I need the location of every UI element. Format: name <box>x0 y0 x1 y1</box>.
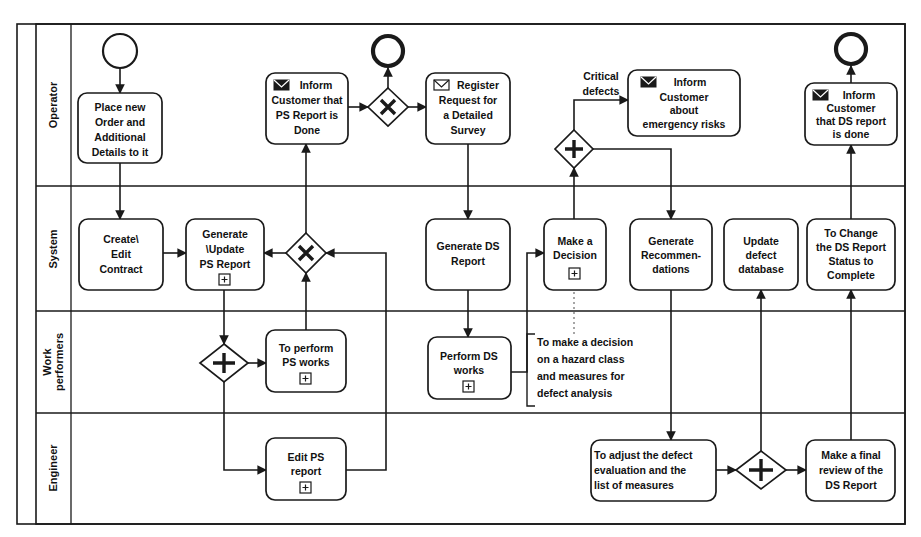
task-change-status-line4: Complete <box>827 269 875 281</box>
task-adjust-line1: To adjust the defect <box>594 449 693 461</box>
parallel-gateway-engineer[interactable] <box>736 451 786 489</box>
task-final-review-line1: Make a final <box>821 449 881 461</box>
task-inform-ps-done-line1: Inform <box>300 79 333 91</box>
task-generate-recommendations[interactable]: Generate Recommen- dations <box>630 219 712 290</box>
task-adjust-line2: evaluation and the <box>594 464 686 476</box>
task-decision-line2: Decision <box>553 249 597 261</box>
task-generate-ds-line2: Report <box>451 255 485 267</box>
task-final-review-line2: review of the <box>819 464 883 476</box>
annotation-line-4: defect analysis <box>537 387 612 399</box>
lane-label-work-performers: Work performers <box>41 333 65 391</box>
task-update-db-line3: database <box>738 263 784 275</box>
flow-plus-gw-to-edit-ps <box>224 382 266 470</box>
lane-label-work-performers-line2: performers <box>53 333 65 391</box>
task-inform-emergency-line1: Inform <box>674 76 707 88</box>
task-edit-ps-line1: Edit PS <box>288 451 325 463</box>
task-make-a-decision[interactable]: Make a Decision <box>544 219 606 290</box>
task-generate-update-ps-report[interactable]: Generate \Update PS Report <box>186 219 264 290</box>
bpmn-diagram: Operator System Work performers Engineer <box>0 0 921 537</box>
lane-label-work-performers-line1: Work <box>41 347 53 375</box>
task-perform-ps-works[interactable]: To perform PS works <box>266 330 346 392</box>
task-inform-ds-done-line2: Customer <box>826 102 875 114</box>
task-perform-ds-works[interactable]: Perform DS works <box>428 337 511 399</box>
task-place-new-order-line2: Order and <box>95 116 145 128</box>
task-change-status-line3: Status to <box>829 255 874 267</box>
annotation-line-2: on a hazard class <box>537 353 625 365</box>
task-inform-ds-done[interactable]: Inform Customer that DS report is done <box>805 83 897 145</box>
exclusive-gateway-system[interactable] <box>286 233 326 273</box>
task-adjust-line3: list of measures <box>594 479 674 491</box>
task-final-review-line3: DS Report <box>825 479 877 491</box>
flow-label-critical-defects: Critical defects <box>583 70 620 97</box>
task-update-db-line1: Update <box>743 235 779 247</box>
lane-label-system: System <box>47 229 59 268</box>
task-create-edit-contract[interactable]: Create\ Edit Contract <box>79 219 163 290</box>
envelope-filled-icon <box>274 80 289 90</box>
end-event-ds-report[interactable] <box>836 34 866 64</box>
task-place-new-order-line4: Details to it <box>92 146 149 158</box>
task-contract-line1: Create\ <box>103 233 139 245</box>
annotation-decision-note: To make a decision on a hazard class and… <box>527 334 633 406</box>
task-perform-ds-line1: Perform DS <box>440 350 498 362</box>
end-event-ps-report[interactable] <box>373 36 403 66</box>
task-inform-ds-done-line3: that DS report <box>816 115 887 127</box>
start-event-operator[interactable] <box>103 34 137 68</box>
task-edit-ps-report[interactable]: Edit PS report <box>266 438 346 500</box>
task-edit-ps-line2: report <box>291 465 322 477</box>
flow-plus-gw-to-recommendations <box>593 149 671 219</box>
task-inform-customer-ps-done[interactable]: Inform Customer that PS Report is Done <box>266 73 348 144</box>
lane-label-system-text: System <box>47 229 59 268</box>
task-inform-ds-done-line1: Inform <box>843 89 876 101</box>
exclusive-gateway-operator-top[interactable] <box>368 88 408 126</box>
task-generate-ds-line1: Generate DS <box>436 240 499 252</box>
task-inform-emergency-risks[interactable]: Inform Customer about emergency risks <box>628 70 740 136</box>
envelope-open-icon <box>434 80 449 90</box>
task-register-request-line4: Survey <box>450 124 485 136</box>
task-register-request[interactable]: Register Request for a Detailed Survey <box>426 73 510 144</box>
bpmn-diagram-canvas: Operator System Work performers Engineer <box>0 0 921 537</box>
critical-defects-line1: Critical <box>583 70 619 82</box>
subprocess-plus-marker <box>300 373 311 384</box>
task-register-request-line3: a Detailed <box>443 109 493 121</box>
task-perform-ds-line2: works <box>453 364 485 376</box>
task-ps-report-line3: PS Report <box>200 258 251 270</box>
task-decision-line1: Make a <box>557 235 592 247</box>
lane-label-operator-text: Operator <box>47 81 59 128</box>
task-ps-report-line2: \Update <box>206 243 245 255</box>
task-update-db-line2: defect <box>746 249 777 261</box>
subprocess-plus-marker <box>569 268 580 279</box>
lane-label-engineer-text: Engineer <box>47 444 59 492</box>
task-recommendations-line1: Generate <box>648 235 694 247</box>
subprocess-plus-marker <box>300 482 311 493</box>
task-register-request-line2: Request for <box>439 94 497 106</box>
critical-defects-line2: defects <box>583 85 620 97</box>
parallel-gateway-work-performers[interactable] <box>200 344 248 382</box>
task-recommendations-line2: Recommen- <box>641 249 702 261</box>
flow-plus-gw-critical-defects <box>574 100 628 130</box>
task-contract-line2: Edit <box>111 248 131 260</box>
task-inform-ps-done-line2: Customer that <box>271 94 343 106</box>
task-inform-emergency-line2: Customer <box>659 91 708 103</box>
task-register-request-line1: Register <box>457 79 499 91</box>
lane-label-operator: Operator <box>47 81 59 128</box>
task-adjust-defect-evaluation[interactable]: To adjust the defect evaluation and the … <box>591 440 716 501</box>
task-change-status-line1: To Change <box>824 227 878 239</box>
task-perform-ps-line2: PS works <box>282 356 329 368</box>
task-place-new-order[interactable]: Place new Order and Additional Details t… <box>78 93 162 163</box>
task-contract-line3: Contract <box>99 263 143 275</box>
task-perform-ps-line1: To perform <box>279 342 334 354</box>
subprocess-plus-marker <box>219 274 230 285</box>
task-change-status-line2: the DS Report <box>816 241 887 253</box>
parallel-gateway-operator-critical[interactable] <box>555 130 593 168</box>
task-inform-emergency-line4: emergency risks <box>643 118 726 130</box>
lane-label-engineer: Engineer <box>47 444 59 492</box>
subprocess-plus-marker <box>463 381 474 392</box>
envelope-filled-icon <box>813 90 828 100</box>
task-generate-ds-report[interactable]: Generate DS Report <box>426 219 510 290</box>
task-inform-ps-done-line3: PS Report is <box>276 109 339 121</box>
task-update-defect-database[interactable]: Update defect database <box>724 219 798 290</box>
envelope-filled-icon <box>641 77 656 87</box>
task-inform-emergency-line3: about <box>670 104 699 116</box>
task-final-review-ds-report[interactable]: Make a final review of the DS Report <box>806 440 895 501</box>
task-change-ds-report-status[interactable]: To Change the DS Report Status to Comple… <box>807 219 895 290</box>
